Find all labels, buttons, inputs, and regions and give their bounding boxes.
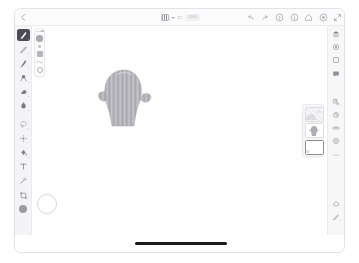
tool-smudge[interactable] xyxy=(17,100,30,112)
fullscreen-icon[interactable] xyxy=(333,13,342,22)
topbar-left-group xyxy=(19,9,28,26)
settings-circle-icon[interactable] xyxy=(319,13,328,22)
chevron-down-icon xyxy=(171,17,175,19)
layer-thumbnail-sketch xyxy=(306,124,323,137)
top-app-bar: 100% xyxy=(15,9,345,26)
tool-crop[interactable] xyxy=(17,189,30,201)
chevron-left-icon[interactable] xyxy=(19,13,28,22)
tool-options-corner xyxy=(28,82,29,83)
tool-palette xyxy=(15,26,32,237)
reference-icon[interactable] xyxy=(331,136,342,146)
timelapse-icon[interactable] xyxy=(331,110,342,120)
tool-pencil[interactable] xyxy=(17,43,30,55)
canvas-artwork xyxy=(91,66,161,136)
tool-live-brush[interactable] xyxy=(17,57,30,69)
ruler-icon[interactable] xyxy=(331,123,342,133)
brush-size-cursor xyxy=(37,194,57,214)
home-indicator-area xyxy=(15,235,345,252)
tool-pixel-brush[interactable] xyxy=(17,29,30,41)
drawing-canvas[interactable] xyxy=(15,26,345,237)
layer-item-sketch[interactable] xyxy=(305,123,324,138)
pen-options-corner xyxy=(340,220,341,221)
comment-icon[interactable] xyxy=(331,69,342,79)
tool-options-corner xyxy=(28,67,29,68)
tool-options-corner xyxy=(28,96,29,97)
screenshot-root: 100% xyxy=(0,0,359,263)
pen-tip-icon[interactable] xyxy=(331,212,342,222)
publish-icon[interactable] xyxy=(331,97,342,107)
more-horizontal-icon[interactable] xyxy=(331,150,342,160)
brush-size-slider[interactable] xyxy=(35,31,44,32)
tablet-device-frame: 100% xyxy=(14,8,345,253)
brush-opacity-swatch[interactable] xyxy=(35,51,44,57)
layers-icon[interactable] xyxy=(331,29,342,39)
topbar-right-group xyxy=(246,9,342,26)
tool-eyedropper[interactable] xyxy=(17,175,30,187)
tool-text[interactable] xyxy=(17,161,30,173)
layers-panel xyxy=(302,104,324,157)
brush-size-preview[interactable] xyxy=(35,35,44,42)
cloud-icon[interactable] xyxy=(331,199,342,209)
tool-options-corner xyxy=(28,39,29,40)
layer-item-photo[interactable] xyxy=(305,107,324,122)
tool-options-corner xyxy=(28,110,29,111)
redo-icon[interactable] xyxy=(261,13,270,22)
undo-icon[interactable] xyxy=(246,13,255,22)
publish-options-corner xyxy=(340,105,341,106)
tool-fill[interactable] xyxy=(17,147,30,159)
layer-item-blank[interactable] xyxy=(305,140,324,155)
tool-options-corner xyxy=(28,128,29,129)
brush-flow-small-swatch[interactable] xyxy=(35,45,44,48)
overflow-dots-icon[interactable] xyxy=(178,16,183,19)
tool-eraser[interactable] xyxy=(17,86,30,98)
document-thumbnail-icon xyxy=(161,14,169,21)
tool-lasso-select[interactable] xyxy=(17,118,30,130)
home-icon[interactable] xyxy=(304,13,313,22)
tool-options-corner xyxy=(28,53,29,54)
tool-options-corner xyxy=(28,142,29,143)
right-sidebar xyxy=(327,26,344,237)
tool-transform[interactable] xyxy=(17,132,30,144)
brush-blend-mode-icon[interactable] xyxy=(35,67,44,73)
brush-smoothing-icon[interactable] xyxy=(36,60,43,64)
home-indicator[interactable] xyxy=(135,242,227,244)
zoom-level-indicator[interactable]: 100% xyxy=(185,14,200,21)
topbar-center-group: 100% xyxy=(161,9,201,26)
tool-options-corner xyxy=(28,157,29,158)
color-swatch-button[interactable] xyxy=(19,205,27,213)
help-circle-icon[interactable] xyxy=(275,13,284,22)
color-wheel-icon[interactable] xyxy=(331,42,342,52)
info-circle-icon[interactable] xyxy=(290,13,299,22)
document-thumbnail-chip[interactable] xyxy=(161,14,175,21)
tool-vector-brush[interactable] xyxy=(17,72,30,84)
square-icon[interactable] xyxy=(331,55,342,65)
brush-settings-panel xyxy=(34,28,45,77)
